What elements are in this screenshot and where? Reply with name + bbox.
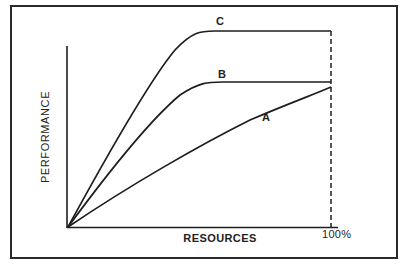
chart: PERFORMANCE RESOURCES 100% C B A xyxy=(0,0,406,270)
curve-c-label: C xyxy=(216,15,224,27)
x-axis-label: RESOURCES xyxy=(183,232,256,244)
y-axis-label: PERFORMANCE xyxy=(39,91,51,183)
curve-c xyxy=(68,31,331,227)
curve-a-label: A xyxy=(262,111,270,123)
x-max-label: 100% xyxy=(322,228,351,240)
curve-b-label: B xyxy=(218,68,226,80)
